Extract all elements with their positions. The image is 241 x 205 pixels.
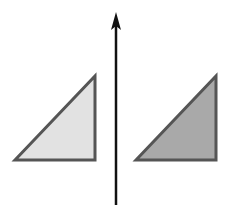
- right-triangle-shape: [136, 76, 216, 160]
- diagram-canvas: [0, 0, 241, 205]
- left-triangle-shape: [15, 76, 95, 160]
- reflection-diagram: [0, 0, 241, 205]
